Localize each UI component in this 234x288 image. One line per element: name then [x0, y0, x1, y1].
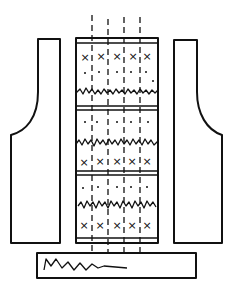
- cross-symbol: ×: [96, 50, 105, 63]
- cross-symbol: ×: [127, 155, 136, 168]
- cross-symbol: ×: [79, 219, 88, 232]
- cross-symbol: ×: [79, 156, 88, 169]
- cross-symbol: ×: [95, 155, 104, 168]
- left-front-piece: [11, 39, 60, 243]
- cross-symbol: ×: [128, 50, 137, 63]
- cross-symbol: ×: [127, 219, 136, 232]
- bottom-band: [37, 253, 196, 278]
- cross-symbol: ×: [142, 50, 151, 63]
- cross-symbol: ×: [142, 219, 151, 232]
- back-panel: × × × × × × × × × × ×: [76, 38, 158, 243]
- cross-symbol: ×: [80, 51, 89, 64]
- right-front-piece: [174, 40, 222, 243]
- cross-symbol: ×: [142, 155, 151, 168]
- vest-schematic: × × × × × × × × × × ×: [0, 0, 234, 288]
- cross-symbol: ×: [112, 50, 121, 63]
- cross-symbol: ×: [112, 219, 121, 232]
- cross-symbol: ×: [95, 219, 104, 232]
- cross-symbol: ×: [112, 155, 121, 168]
